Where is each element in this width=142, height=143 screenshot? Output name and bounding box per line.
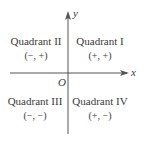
quadrant-2-label: Quadrant II: [10, 36, 61, 47]
quadrant-4-label: Quadrant IV: [72, 96, 127, 107]
x-axis-label: x: [131, 67, 136, 78]
axes-graphic: [0, 0, 142, 143]
quadrant-2-signs: (−, +): [25, 51, 48, 61]
quadrant-1-signs: (+, +): [89, 51, 112, 61]
quadrant-1-label: Quadrant I: [76, 36, 123, 47]
origin-label: O: [58, 77, 66, 88]
quadrant-3-signs: (−, −): [24, 111, 47, 121]
quadrant-4-signs: (+, −): [89, 111, 112, 121]
y-axis-label: y: [73, 8, 78, 19]
quadrant-3-label: Quadrant III: [8, 96, 63, 107]
